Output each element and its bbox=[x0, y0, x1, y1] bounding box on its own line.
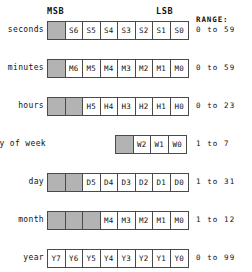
bit-cell: W0 bbox=[169, 136, 187, 153]
unused-bit-cell bbox=[66, 174, 84, 191]
rtc-register-bitmap-diagram: MSB LSB RANGE: secondsS6S5S4S3S2S1S00 to… bbox=[0, 0, 252, 272]
bit-cell: M6 bbox=[66, 60, 84, 77]
bit-cell: M2 bbox=[136, 60, 154, 77]
unused-bit-cell bbox=[48, 212, 66, 229]
bit-cell: D1 bbox=[153, 174, 171, 191]
register-row-label: year bbox=[0, 247, 44, 268]
bit-cell: W1 bbox=[151, 136, 169, 153]
register-row: hoursH5H4H3H2H1H00 to 23 bbox=[0, 95, 252, 116]
bit-field-grid: M6M5M4M3M2M1M0 bbox=[47, 59, 189, 78]
bit-field-grid: W2W1W0 bbox=[115, 135, 187, 154]
bit-cell: Y3 bbox=[118, 250, 136, 267]
msb-header-label: MSB bbox=[47, 6, 64, 16]
bit-field-grid: S6S5S4S3S2S1S0 bbox=[47, 21, 189, 40]
bit-cell: S1 bbox=[153, 22, 171, 39]
bit-cell: H0 bbox=[171, 98, 189, 115]
register-row-label: hours bbox=[0, 95, 44, 116]
bit-cell: Y2 bbox=[136, 250, 154, 267]
bit-field-grid: Y7Y6Y5Y4Y3Y2Y1Y0 bbox=[47, 249, 189, 268]
unused-bit-cell bbox=[116, 136, 134, 153]
bit-cell: H5 bbox=[83, 98, 101, 115]
bit-cell: M3 bbox=[118, 212, 136, 229]
bit-cell: M3 bbox=[118, 60, 136, 77]
bit-cell: D2 bbox=[136, 174, 154, 191]
register-row-label: seconds bbox=[0, 19, 44, 40]
register-range-value: 0 to 59 bbox=[196, 19, 235, 40]
bit-cell: M4 bbox=[101, 60, 119, 77]
bit-cell: S4 bbox=[101, 22, 119, 39]
bit-cell: Y0 bbox=[171, 250, 189, 267]
bit-cell: Y7 bbox=[48, 250, 66, 267]
register-range-value: 0 to 23 bbox=[196, 95, 235, 116]
register-row-label: day bbox=[0, 171, 44, 192]
unused-bit-cell bbox=[48, 22, 66, 39]
register-range-value: 1 to 7 bbox=[196, 133, 230, 154]
bit-cell: H3 bbox=[118, 98, 136, 115]
register-row: minutesM6M5M4M3M2M1M00 to 59 bbox=[0, 57, 252, 78]
register-row: yearY7Y6Y5Y4Y3Y2Y1Y00 to 99 bbox=[0, 247, 252, 268]
bit-cell: Y5 bbox=[83, 250, 101, 267]
unused-bit-cell bbox=[48, 174, 66, 191]
unused-bit-cell bbox=[66, 212, 84, 229]
register-range-value: 0 to 59 bbox=[196, 57, 235, 78]
lsb-header-label: LSB bbox=[156, 6, 173, 16]
register-range-value: 1 to 12 bbox=[196, 209, 235, 230]
register-row: monthM4M3M2M1M01 to 12 bbox=[0, 209, 252, 230]
bit-cell: Y6 bbox=[66, 250, 84, 267]
register-range-value: 1 to 31 bbox=[196, 171, 235, 192]
bit-cell: D0 bbox=[171, 174, 189, 191]
register-row-label: month bbox=[0, 209, 44, 230]
bit-cell: M5 bbox=[83, 60, 101, 77]
bit-cell: D4 bbox=[101, 174, 119, 191]
unused-bit-cell bbox=[83, 212, 101, 229]
bit-field-grid: H5H4H3H2H1H0 bbox=[47, 97, 189, 116]
unused-bit-cell bbox=[48, 98, 66, 115]
bit-cell: S2 bbox=[136, 22, 154, 39]
bit-cell: H2 bbox=[136, 98, 154, 115]
bit-cell: D3 bbox=[118, 174, 136, 191]
register-range-value: 0 to 99 bbox=[196, 247, 235, 268]
unused-bit-cell bbox=[48, 60, 66, 77]
bit-cell: M2 bbox=[136, 212, 154, 229]
bit-cell: M0 bbox=[171, 60, 189, 77]
bit-cell: S3 bbox=[118, 22, 136, 39]
bit-cell: Y1 bbox=[153, 250, 171, 267]
bit-cell: D5 bbox=[83, 174, 101, 191]
bit-cell: W2 bbox=[134, 136, 152, 153]
register-row-label: minutes bbox=[0, 57, 44, 78]
bit-cell: M4 bbox=[101, 212, 119, 229]
bit-cell: S6 bbox=[66, 22, 84, 39]
bit-field-grid: D5D4D3D2D1D0 bbox=[47, 173, 189, 192]
unused-bit-cell bbox=[66, 98, 84, 115]
bit-cell: M1 bbox=[153, 60, 171, 77]
bit-cell: H1 bbox=[153, 98, 171, 115]
bit-cell: S0 bbox=[171, 22, 189, 39]
bit-cell: S5 bbox=[83, 22, 101, 39]
register-row-label: day of week bbox=[0, 133, 46, 154]
register-row: secondsS6S5S4S3S2S1S00 to 59 bbox=[0, 19, 252, 40]
bit-cell: M0 bbox=[171, 212, 189, 229]
bit-cell: M1 bbox=[153, 212, 171, 229]
bit-field-grid: M4M3M2M1M0 bbox=[47, 211, 189, 230]
bit-cell: Y4 bbox=[101, 250, 119, 267]
register-row: day of weekW2W1W01 to 7 bbox=[0, 133, 252, 154]
bit-cell: H4 bbox=[101, 98, 119, 115]
register-row: dayD5D4D3D2D1D01 to 31 bbox=[0, 171, 252, 192]
